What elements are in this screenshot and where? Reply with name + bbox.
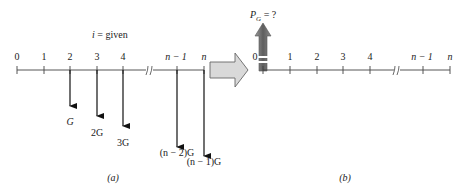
gradient-cash-flow-diagram: i = given 0 1 2 3 4 n − 1 n <box>0 0 461 192</box>
present-worth-label: PG = ? <box>249 9 277 23</box>
period-label-3: 3 <box>341 51 346 62</box>
cash-flow-label: 3G <box>117 137 129 148</box>
cash-flow-label: G <box>66 116 73 127</box>
right-axis-labels: 0 1 2 3 4 n − 1 n <box>253 51 453 62</box>
period-label-4: 4 <box>368 51 373 62</box>
period-label-n: n <box>202 51 207 62</box>
period-label-n: n <box>448 51 453 62</box>
left-panel: i = given 0 1 2 3 4 n − 1 n <box>15 29 222 184</box>
left-axis-labels: 0 1 2 3 4 n − 1 n <box>15 51 207 62</box>
diagram-canvas: i = given 0 1 2 3 4 n − 1 n <box>0 0 461 192</box>
period-label-2: 2 <box>315 51 320 62</box>
period-label-1: 1 <box>42 51 47 62</box>
period-label-0: 0 <box>253 51 258 62</box>
period-label-3: 3 <box>95 51 100 62</box>
period-label-n-minus-1: n − 1 <box>411 51 433 62</box>
cash-flow-labels: G 2G 3G (n − 2)G (n − 1)G <box>66 116 221 168</box>
period-label-4: 4 <box>121 51 126 62</box>
gradient-cash-flow-arrows <box>70 70 204 156</box>
present-worth-arrow-up-icon <box>255 23 271 71</box>
cash-flow-label: 2G <box>91 127 103 138</box>
period-label-n-minus-1: n − 1 <box>165 51 187 62</box>
right-time-axis <box>263 66 450 75</box>
panel-caption-b: (b) <box>339 172 351 184</box>
cash-flow-label: (n − 1)G <box>187 156 222 168</box>
panel-caption-a: (a) <box>107 172 119 184</box>
transform-arrow-icon <box>210 53 248 87</box>
period-label-0: 0 <box>15 51 20 62</box>
period-label-1: 1 <box>288 51 293 62</box>
period-label-2: 2 <box>68 51 73 62</box>
right-panel: PG = ? 0 1 2 <box>249 9 453 184</box>
interest-rate-label: i = given <box>92 29 128 40</box>
left-time-axis <box>17 66 204 75</box>
